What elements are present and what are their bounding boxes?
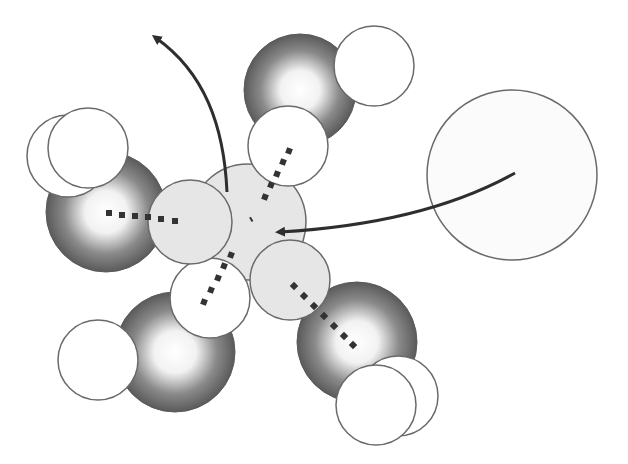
hydrogen-atom [58, 320, 138, 400]
hydrogen-atom [48, 108, 128, 188]
hydrogen-atom-lower-left-inner [170, 258, 250, 338]
hydrogen-atom-top-inner [248, 106, 328, 186]
outgoing-arrow [156, 38, 227, 192]
hydrogen-atom [336, 365, 416, 445]
diagram-canvas [0, 0, 628, 464]
water-molecule-left [27, 108, 166, 272]
hydration-diagram [0, 0, 628, 464]
hydrogen-atom [334, 26, 414, 106]
ion-lobe-lower-right [250, 240, 330, 320]
